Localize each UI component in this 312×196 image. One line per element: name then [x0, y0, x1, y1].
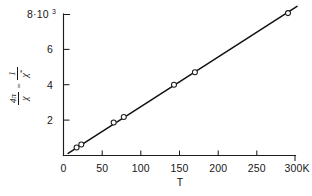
figure-container: 8·10 3 6 4 2 0 50 100 150 200 250 300 K … — [0, 0, 312, 196]
y-axis-title-left-numerator: 4π — [9, 93, 19, 104]
y-axis-title-right-denominator-group: χ* — [18, 69, 30, 79]
y-axis-title-left-denominator: χ — [19, 95, 30, 101]
y-tick-label-8000-exponent: 3 — [52, 8, 56, 15]
x-tick-label-250: 250 — [248, 162, 266, 174]
x-tick-labels: 0 50 100 150 200 250 300 — [60, 162, 302, 174]
y-axis-title-fraction-left: 4π χ — [9, 92, 30, 105]
data-point — [111, 120, 116, 125]
x-tick-label-150: 150 — [170, 162, 188, 174]
x-tick-label-0: 0 — [60, 162, 66, 174]
y-axis-title-right-denominator: χ — [19, 73, 30, 77]
y-axis-title-right-numerator: 1 — [8, 70, 18, 77]
y-tick-label-2000: 2 — [47, 114, 53, 126]
data-point — [79, 142, 84, 147]
curie-weiss-fit-line — [68, 6, 297, 153]
y-axis-group — [64, 14, 71, 156]
x-axis-unit-label: K — [302, 162, 309, 174]
data-point — [192, 70, 197, 75]
x-tick-label-50: 50 — [96, 162, 108, 174]
x-axis-group — [64, 151, 296, 162]
x-tick-label-100: 100 — [132, 162, 150, 174]
y-axis-title: 4π χ = 1 χ* — [0, 69, 50, 103]
data-point — [121, 115, 126, 120]
x-tick-label-200: 200 — [209, 162, 227, 174]
y-tick-label-6000: 6 — [47, 43, 53, 55]
data-point — [74, 145, 79, 150]
y-axis-title-equals: = — [14, 83, 24, 89]
y-axis-title-star-superscript: * — [18, 70, 26, 74]
x-axis-title: T — [177, 176, 184, 188]
y-axis-title-fraction-right: 1 χ* — [8, 67, 30, 80]
x-tick-label-300: 300 — [284, 162, 302, 174]
data-point — [172, 82, 177, 87]
y-tick-label-8000-mantissa: 8·10 — [27, 8, 49, 20]
data-point — [286, 11, 291, 16]
